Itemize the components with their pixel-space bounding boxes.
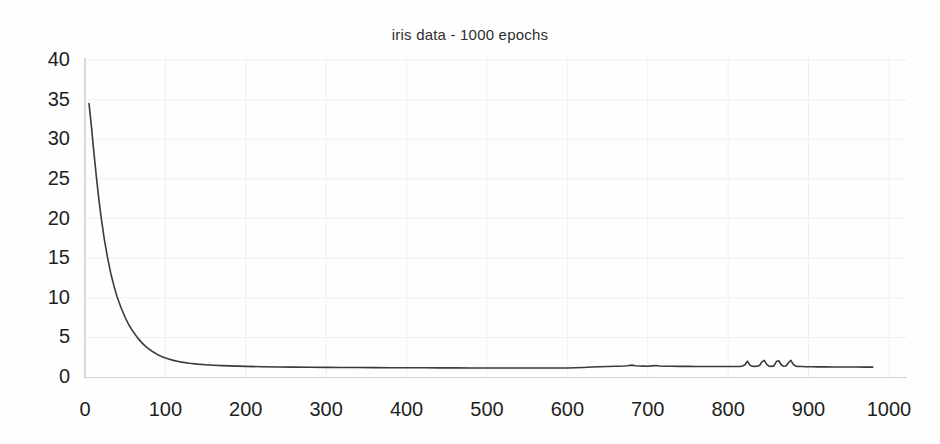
vertical-gridlines xyxy=(165,58,889,377)
chart-screenshot: iris data - 1000 epochs 0510152025303540… xyxy=(0,0,940,444)
chart-plot-area xyxy=(0,0,940,444)
x-axis-tick-label: 400 xyxy=(372,399,442,419)
y-axis-tick-label: 5 xyxy=(24,326,70,346)
x-axis-tick-label: 500 xyxy=(452,399,522,419)
y-axis-tick-label: 40 xyxy=(24,49,70,69)
data-series-line xyxy=(89,104,873,368)
x-axis-tick-label: 300 xyxy=(291,399,361,419)
y-axis-tick-label: 0 xyxy=(24,366,70,386)
x-axis-tick-label: 600 xyxy=(532,399,602,419)
x-axis-tick-label: 0 xyxy=(50,399,120,419)
x-axis-tick-label: 900 xyxy=(774,399,844,419)
y-axis-tick-label: 30 xyxy=(24,128,70,148)
x-axis-tick-label: 100 xyxy=(130,399,200,419)
x-axis-tick-label: 800 xyxy=(693,399,763,419)
x-axis-tick-label: 200 xyxy=(211,399,281,419)
y-axis-tick-label: 15 xyxy=(24,247,70,267)
x-axis-tick-label: 700 xyxy=(613,399,683,419)
y-axis-tick-label: 25 xyxy=(24,168,70,188)
y-axis-tick-label: 35 xyxy=(24,89,70,109)
y-axis-tick-label: 20 xyxy=(24,208,70,228)
y-axis-tick-label: 10 xyxy=(24,287,70,307)
horizontal-gridlines xyxy=(85,60,907,337)
x-axis-tick-label: 1000 xyxy=(854,399,924,419)
